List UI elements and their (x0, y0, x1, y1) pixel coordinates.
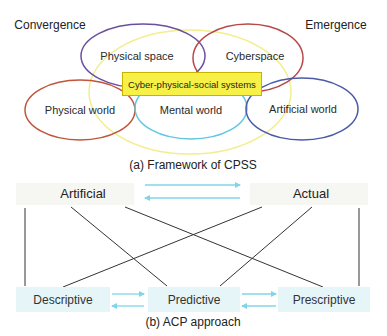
line-artificial-predictive (71, 207, 167, 286)
line-artificial-prescriptive (125, 207, 323, 287)
prescriptive-node: Prescriptive (278, 287, 370, 312)
prescriptive-label: Prescriptive (293, 293, 356, 307)
convergence-label: Convergence (14, 18, 85, 32)
acp-caption: (b) ACP approach (145, 315, 240, 329)
mental-world-label: Mental world (160, 104, 222, 116)
cyberspace-label: Cyberspace (226, 50, 285, 62)
actual-node-label: Actual (293, 186, 329, 201)
descriptive-label: Descriptive (33, 293, 92, 307)
physical-space-label: Physical space (100, 50, 173, 62)
artificial-world-label: Artificial world (269, 103, 337, 115)
artificial-node-label: Artificial (60, 186, 106, 201)
descriptive-node: Descriptive (16, 287, 110, 312)
cpss-center-label: Cyber-physical-social systems (128, 79, 256, 90)
physical-world-label: Physical world (45, 104, 115, 116)
emergence-label: Emergence (305, 18, 366, 32)
predictive-label: Predictive (168, 293, 221, 307)
predictive-node: Predictive (148, 287, 240, 312)
cpss-caption: (a) Framework of CPSS (129, 158, 256, 172)
cpss-center-box: Cyber-physical-social systems (122, 72, 262, 96)
